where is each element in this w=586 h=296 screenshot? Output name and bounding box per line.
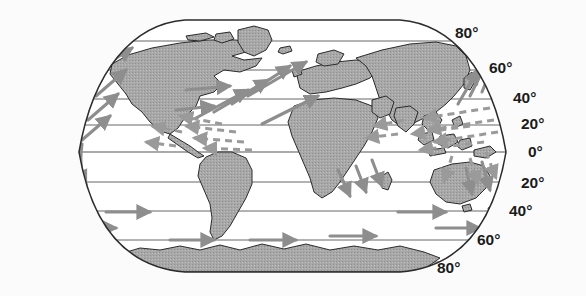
arrow-south-pacific-curl-2	[63, 146, 68, 186]
lat-label-80s: 80°	[437, 259, 460, 276]
lat-label-80n: 80°	[455, 24, 478, 41]
world-map-figure: 80° 60° 40° 20° 0° 20° 40° 60° 80°	[0, 0, 586, 296]
lat-label-equator: 0°	[528, 143, 543, 160]
land-new-zealand	[494, 196, 506, 208]
lat-label-60s: 60°	[477, 231, 500, 248]
lat-label-20s: 20°	[521, 174, 544, 191]
lat-label-60n: 60°	[489, 59, 512, 76]
lat-label-40s: 40°	[509, 202, 532, 219]
land-antarctica	[120, 244, 440, 272]
land-tasmania	[462, 204, 472, 212]
map-canvas: 80° 60° 40° 20° 0° 20° 40° 60° 80°	[0, 0, 586, 296]
arrow-south-pacific-curl-1	[48, 148, 54, 188]
lat-label-20n: 20°	[521, 115, 544, 132]
lat-label-40n: 40°	[513, 89, 536, 106]
